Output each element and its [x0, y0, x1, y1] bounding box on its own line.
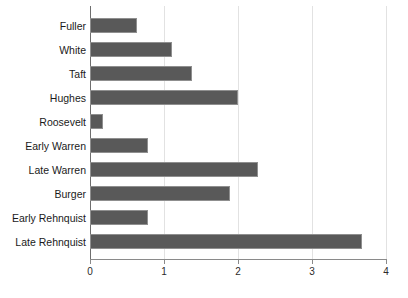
bar-late-rehnquist [90, 234, 362, 249]
x-tick-label-2: 2 [226, 266, 250, 278]
cropped-caption [28, 289, 328, 295]
x-tick-label-4: 4 [374, 266, 398, 278]
bar-early-warren [90, 138, 148, 153]
x-tick-mark-0 [90, 259, 91, 264]
category-label: Late Rehnquist [0, 236, 86, 248]
gridline-2 [238, 6, 239, 259]
x-tick-label-1: 1 [152, 266, 176, 278]
category-label: Hughes [0, 92, 86, 104]
category-label: Roosevelt [0, 116, 86, 128]
bar-taft [90, 66, 192, 81]
bar-late-warren [90, 162, 258, 177]
bar-chart: 0 1 2 3 4 Fuller White Taft Hughes Roose… [0, 0, 408, 298]
x-tick-label-0: 0 [78, 266, 102, 278]
category-label: Early Rehnquist [0, 212, 86, 224]
bar-white [90, 42, 172, 57]
bar-early-rehnquist [90, 210, 148, 225]
x-tick-mark-3 [312, 259, 313, 264]
x-tick-label-3: 3 [300, 266, 324, 278]
category-label: White [0, 44, 86, 56]
category-label: Fuller [0, 20, 86, 32]
gridline-3 [312, 6, 313, 259]
category-label: Burger [0, 188, 86, 200]
category-label: Late Warren [0, 164, 86, 176]
x-tick-mark-2 [238, 259, 239, 264]
bar-hughes [90, 90, 238, 105]
category-label: Early Warren [0, 140, 86, 152]
bar-roosevelt [90, 114, 103, 129]
x-tick-mark-4 [386, 259, 387, 264]
bar-fuller [90, 18, 137, 33]
category-label: Taft [0, 68, 86, 80]
gridline-4 [386, 6, 387, 259]
x-tick-mark-1 [164, 259, 165, 264]
bar-burger [90, 186, 230, 201]
